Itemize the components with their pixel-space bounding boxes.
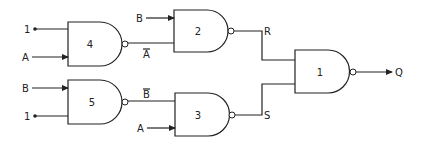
s-signal: S xyxy=(235,84,295,121)
gate-4: 4 xyxy=(68,22,128,66)
r-signal: R xyxy=(234,26,295,60)
gate-3: 3 xyxy=(175,93,235,136)
gate-5: 5 xyxy=(68,80,128,124)
a-bar-signal: A xyxy=(128,43,174,60)
input-label: 1 xyxy=(24,24,30,35)
input-label: A xyxy=(137,123,144,134)
gate-3-label: 3 xyxy=(195,110,201,121)
inversion-bubble xyxy=(122,99,128,105)
b-bar-label: B xyxy=(143,89,150,100)
a-bar-label: A xyxy=(143,49,150,60)
input-label: B xyxy=(136,13,143,24)
logic-diagram: 4 1 A 2 B A 5 B 1 xyxy=(0,0,425,144)
gate-2-input-b: B xyxy=(136,13,174,24)
inversion-bubble xyxy=(228,28,234,34)
gate-5-input-b: B xyxy=(22,83,68,94)
b-bar-signal: B xyxy=(128,89,175,101)
inversion-bubble xyxy=(350,69,356,75)
gate-2-label: 2 xyxy=(195,26,201,37)
q-output: Q xyxy=(356,67,403,78)
input-label: B xyxy=(22,83,29,94)
gate-4-input-a: A xyxy=(22,52,68,63)
r-label: R xyxy=(264,26,271,37)
gate-2: 2 xyxy=(174,10,234,52)
gate-5-input-1: 1 xyxy=(24,111,68,122)
inversion-bubble xyxy=(229,112,235,118)
gate-5-label: 5 xyxy=(89,97,95,108)
gate-1-label: 1 xyxy=(317,67,323,78)
q-label: Q xyxy=(395,67,403,78)
gate-1: 1 xyxy=(295,50,356,93)
gate-4-input-1: 1 xyxy=(24,24,68,35)
input-label: A xyxy=(22,52,29,63)
gate-3-input-a: A xyxy=(137,123,175,134)
inversion-bubble xyxy=(122,41,128,47)
gate-4-label: 4 xyxy=(87,39,93,50)
input-label: 1 xyxy=(24,111,30,122)
s-label: S xyxy=(264,110,270,121)
